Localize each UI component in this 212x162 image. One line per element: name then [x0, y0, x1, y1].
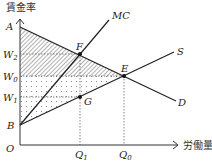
g-label: G — [84, 96, 92, 107]
point-e — [122, 74, 126, 78]
origin-label: O — [6, 143, 14, 154]
y-axis-label: 賃金率 — [6, 1, 36, 13]
tick-q1: Q1 — [75, 149, 88, 162]
x-axis-label: 労働量 — [183, 139, 212, 151]
mc-label: MC — [111, 10, 130, 21]
tick-w1: W1 — [3, 92, 18, 105]
labor-market-diagram: 賃金率 労働量 O A W2 W0 W1 B Q1 Q0 MC S D F E … — [0, 0, 212, 162]
f-label: F — [75, 41, 84, 52]
tick-a: A — [5, 21, 13, 32]
tick-w2: W2 — [3, 49, 18, 62]
tick-w0: W0 — [3, 71, 18, 84]
d-label: D — [177, 97, 186, 108]
e-label: E — [120, 63, 129, 74]
tick-b: B — [6, 120, 14, 131]
s-label: S — [177, 46, 184, 57]
point-f — [78, 52, 82, 56]
point-g — [78, 95, 82, 99]
tick-q0: Q0 — [119, 149, 132, 162]
